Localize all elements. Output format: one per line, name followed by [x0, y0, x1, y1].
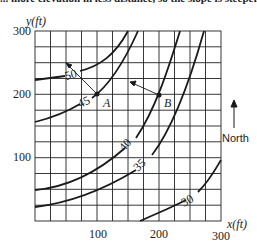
- y-tick-200: 200: [13, 87, 31, 101]
- x-tick-100: 100: [89, 227, 107, 241]
- point-b-dot: [157, 93, 162, 98]
- x-tick-200: 200: [150, 227, 168, 241]
- point-a-label: A: [102, 96, 111, 110]
- grid: [35, 31, 221, 221]
- north-arrow-icon: [231, 100, 237, 128]
- contour-map: A B 50 45 40 35 30 y(ft) 300 200 100 100…: [0, 0, 257, 248]
- point-b-label: B: [164, 96, 172, 110]
- contour-label-30: 30: [179, 191, 196, 209]
- x-tick-300: 300: [212, 229, 230, 243]
- contour-35: [35, 31, 204, 207]
- y-tick-300: 300: [13, 24, 31, 38]
- contour-label-40: 40: [116, 136, 134, 154]
- contour-30: [140, 160, 221, 221]
- contour-label-50: 50: [63, 66, 78, 83]
- contour-label-45: 45: [75, 93, 92, 111]
- x-axis-label: x(ft): [226, 217, 247, 231]
- north-label: North: [222, 132, 249, 144]
- point-a-dot: [95, 92, 100, 97]
- y-tick-100: 100: [13, 150, 31, 164]
